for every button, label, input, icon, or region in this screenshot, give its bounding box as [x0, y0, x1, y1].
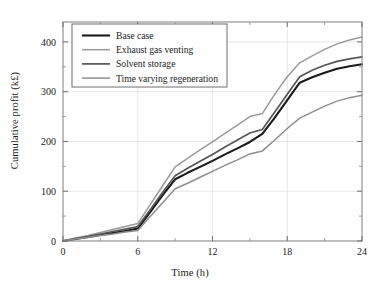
legend-label-time-varying-regeneration: Time varying regeneration: [116, 73, 218, 84]
y-tick-label: 0: [51, 236, 56, 247]
x-tick-label: 24: [357, 246, 367, 257]
y-tick-label: 400: [41, 37, 56, 48]
legend-label-solvent-storage: Solvent storage: [116, 58, 175, 69]
chart-legend: Base caseExhaust gas ventingSolvent stor…: [72, 24, 227, 87]
chart-figure: 061218240100200300400Base caseExhaust ga…: [0, 0, 380, 284]
x-tick-label: 12: [208, 246, 218, 257]
legend-label-base-case: Base case: [116, 30, 154, 41]
x-tick-label: 18: [282, 246, 292, 257]
x-tick-label: 0: [61, 246, 66, 257]
y-tick-label: 100: [41, 186, 56, 197]
y-tick-label: 300: [41, 86, 56, 97]
line-chart-canvas: 061218240100200300400Base caseExhaust ga…: [0, 0, 380, 284]
x-axis-tick-labels: 06121824: [61, 246, 368, 257]
legend-label-exhaust-gas-venting: Exhaust gas venting: [116, 44, 193, 55]
x-tick-label: 6: [135, 246, 140, 257]
y-axis-tick-labels: 0100200300400: [41, 37, 56, 247]
y-tick-label: 200: [41, 136, 56, 147]
